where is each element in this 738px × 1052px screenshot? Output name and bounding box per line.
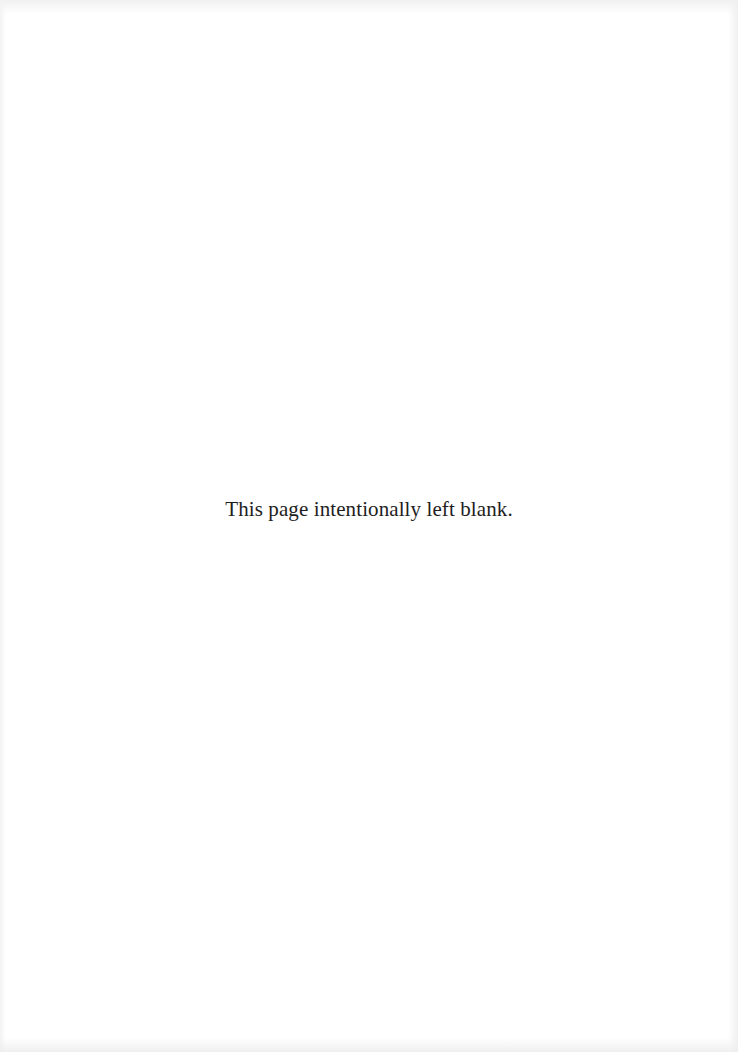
scan-edge-left xyxy=(0,0,6,1052)
blank-page-notice: This page intentionally left blank. xyxy=(0,497,738,522)
scan-edge-right xyxy=(728,0,738,1052)
document-page: This page intentionally left blank. xyxy=(0,0,738,1052)
scan-edge-top xyxy=(0,0,738,14)
scan-edge-bottom xyxy=(0,1038,738,1052)
